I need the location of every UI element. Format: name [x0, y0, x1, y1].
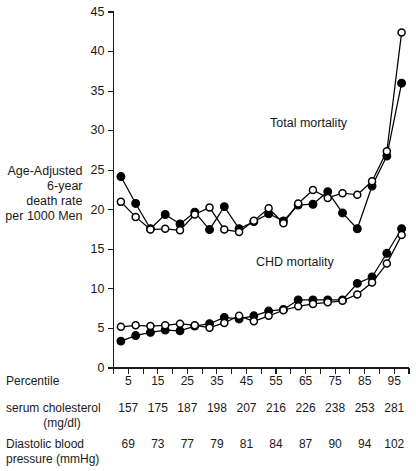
axis-lines [114, 12, 410, 368]
y-tick-label: 25 [91, 163, 105, 177]
data-point-filled [206, 226, 214, 234]
data-point-open [280, 220, 287, 227]
data-point-open [309, 187, 316, 194]
data-point-filled [398, 79, 406, 87]
series-markers-1 [117, 29, 405, 235]
row-value: 207 [236, 401, 256, 415]
data-point-filled [309, 200, 317, 208]
y-tick-label: 0 [98, 361, 105, 375]
row-value: 226 [296, 401, 316, 415]
annotation-chd-mortality: CHD mortality [256, 255, 335, 269]
row-value: 95 [388, 374, 402, 388]
y-tick-label: 40 [91, 44, 105, 58]
data-point-open [383, 260, 390, 267]
data-point-open [162, 225, 169, 232]
row-value: 175 [148, 401, 168, 415]
row-serum-cholesterol: serum cholesterol(mg/dl)1571751871982072… [6, 401, 405, 430]
data-point-open [176, 227, 183, 234]
row-value: 281 [384, 401, 404, 415]
data-point-filled [176, 327, 184, 335]
row-value: 102 [384, 437, 404, 451]
y-axis-label-line: 6-year [47, 179, 82, 193]
row-value: 253 [355, 401, 375, 415]
chart-canvas: Age-Adjusted6-yeardeath rateper 1000 Men… [0, 0, 416, 471]
data-point-open [339, 190, 346, 197]
data-point-open [206, 204, 213, 211]
data-point-open [265, 205, 272, 212]
y-tick-label: 45 [91, 5, 105, 19]
data-point-filled [132, 200, 140, 208]
data-point-open [398, 29, 405, 36]
row-value: 79 [210, 437, 224, 451]
row-value: 25 [181, 374, 195, 388]
data-point-filled [117, 173, 125, 181]
data-point-open [354, 291, 361, 298]
data-point-open [265, 312, 272, 319]
data-point-open [147, 226, 154, 233]
row-value: 35 [210, 374, 224, 388]
row-value: 5 [125, 374, 132, 388]
data-point-open [339, 297, 346, 304]
row-value: 198 [207, 401, 227, 415]
row-label-line: pressure (mmHg) [6, 452, 99, 466]
data-point-open [383, 148, 390, 155]
row-label-line: (mg/dl) [43, 416, 80, 430]
series-0 [121, 83, 402, 229]
data-point-open [324, 194, 331, 201]
y-tick-label: 5 [98, 321, 105, 335]
annotation-total-mortality: Total mortality [270, 116, 348, 130]
y-tick-label: 20 [91, 203, 105, 217]
data-point-open [117, 323, 124, 330]
data-point-open [162, 322, 169, 329]
row-value: 90 [328, 437, 342, 451]
data-point-open [221, 319, 228, 326]
data-point-filled [353, 225, 361, 233]
row-value: 187 [177, 401, 197, 415]
data-point-open [132, 213, 139, 220]
data-point-filled [353, 279, 361, 287]
data-series-group [117, 29, 406, 345]
data-point-open [147, 323, 154, 330]
y-tick-label: 15 [91, 242, 105, 256]
row-value: 45 [240, 374, 254, 388]
data-point-filled [339, 209, 347, 217]
row-value: 73 [151, 437, 165, 451]
series-markers-0 [117, 79, 406, 233]
data-point-open [250, 217, 257, 224]
data-point-filled [117, 337, 125, 345]
data-point-open [206, 324, 213, 331]
row-label-line: Percentile [6, 374, 60, 388]
y-axis-label-line: Age-Adjusted [7, 164, 82, 178]
data-point-open [221, 226, 228, 233]
row-value: 84 [269, 437, 283, 451]
y-tick-label: 10 [91, 282, 105, 296]
y-axis-label: Age-Adjusted6-yeardeath rateper 1000 Men [5, 164, 82, 223]
data-point-filled [220, 203, 228, 211]
data-point-open [280, 307, 287, 314]
row-value: 75 [328, 374, 342, 388]
data-point-open [324, 299, 331, 306]
data-point-open [191, 322, 198, 329]
row-value: 157 [118, 401, 138, 415]
data-point-open [369, 178, 376, 185]
y-tick-label: 35 [91, 84, 105, 98]
row-label-line: serum cholesterol [6, 401, 101, 415]
data-point-filled [132, 332, 140, 340]
row-value: 87 [299, 437, 313, 451]
y-tick-labels: 051015202530354045 [91, 5, 105, 375]
y-axis-label-line: per 1000 Men [5, 209, 82, 223]
data-point-open [191, 211, 198, 218]
series-annotations: Total mortalityCHD mortality [256, 116, 348, 269]
series-markers-2 [117, 225, 406, 345]
row-value: 55 [269, 374, 283, 388]
bottom-data-rows: Percentile5152535455565758595serum chole… [6, 374, 405, 466]
data-point-open [398, 232, 405, 239]
data-point-open [117, 198, 124, 205]
data-point-open [295, 200, 302, 207]
chart-figure: Age-Adjusted6-yeardeath rateper 1000 Men… [0, 0, 416, 471]
data-point-filled [383, 249, 391, 257]
row-label-line: Diastolic blood [6, 437, 84, 451]
data-point-open [369, 279, 376, 286]
series-line [121, 33, 402, 232]
row-value: 94 [358, 437, 372, 451]
